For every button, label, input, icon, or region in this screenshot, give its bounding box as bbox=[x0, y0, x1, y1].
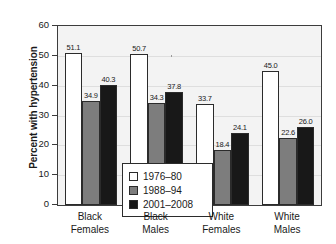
bar-value-label: 24.1 bbox=[233, 123, 247, 132]
bar-value-label: 18.4 bbox=[215, 140, 229, 149]
bar-value-label: 37.8 bbox=[167, 82, 181, 91]
y-tick-label: 30 bbox=[9, 109, 49, 120]
y-tick-label: 20 bbox=[9, 138, 49, 149]
legend-label-1976-80: 1976–80 bbox=[143, 171, 182, 182]
plot-area: 51.134.940.350.734.337.833.718.424.145.0… bbox=[57, 25, 322, 206]
bar-value-label: 22.6 bbox=[281, 128, 295, 137]
plot-inner: 51.134.940.350.734.337.833.718.424.145.0… bbox=[58, 26, 321, 205]
bar-value-label: 33.7 bbox=[198, 94, 212, 103]
hypertension-bar-chart: Percent with hypertension 0102030405060 … bbox=[0, 0, 336, 244]
legend-swatch-1976-80-icon bbox=[129, 172, 138, 181]
x-tick-label-line: White bbox=[247, 211, 327, 224]
gridline bbox=[58, 56, 321, 57]
bar bbox=[231, 133, 249, 205]
bar-value-label: 45.0 bbox=[264, 61, 278, 70]
legend-swatch-1988-94-icon bbox=[129, 186, 138, 195]
bar bbox=[262, 71, 280, 205]
bar-value-label: 40.3 bbox=[101, 75, 115, 84]
y-tick-label: 40 bbox=[9, 79, 49, 90]
legend-item: 1976–80 bbox=[129, 169, 206, 183]
print-speck bbox=[171, 55, 172, 57]
y-tick-label: 50 bbox=[9, 49, 49, 60]
gridline bbox=[58, 86, 321, 87]
legend-swatch-2001-2008-icon bbox=[129, 200, 138, 209]
legend-label-1988-94: 1988–94 bbox=[143, 185, 182, 196]
legend-item: 1988–94 bbox=[129, 183, 206, 197]
bar-value-label: 26.0 bbox=[299, 117, 313, 126]
y-tick-label: 60 bbox=[9, 19, 49, 30]
bar bbox=[65, 53, 83, 205]
x-tick-label-line: Males bbox=[247, 224, 327, 237]
bar bbox=[100, 85, 118, 205]
bar-value-label: 34.9 bbox=[84, 91, 98, 100]
bar-value-label: 51.1 bbox=[66, 43, 80, 52]
x-tick-label: WhiteMales bbox=[247, 211, 327, 236]
y-tick-label: 10 bbox=[9, 168, 49, 179]
y-tick-label: 0 bbox=[9, 198, 49, 209]
bar-value-label: 34.3 bbox=[150, 93, 164, 102]
legend-label-2001-2008: 2001–2008 bbox=[143, 199, 193, 210]
bar-value-label: 50.7 bbox=[132, 44, 146, 53]
legend-item: 2001–2008 bbox=[129, 197, 206, 211]
legend: 1976–80 1988–94 2001–2008 bbox=[122, 163, 213, 217]
bar bbox=[214, 150, 232, 205]
bar bbox=[82, 101, 100, 205]
bar bbox=[279, 138, 297, 205]
bar bbox=[297, 127, 315, 205]
